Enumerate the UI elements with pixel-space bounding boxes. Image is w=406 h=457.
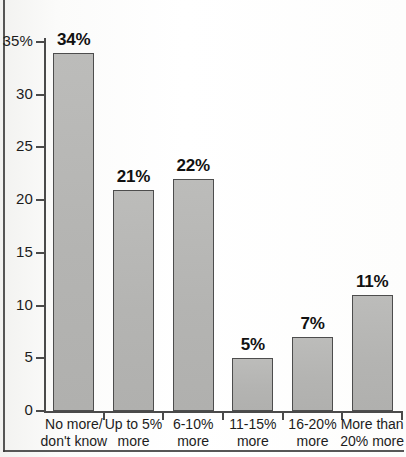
y-axis-tick-label: 20 — [0, 190, 33, 207]
y-axis-line — [44, 38, 46, 413]
category-label-line-2: more — [159, 433, 227, 450]
bar-rect — [53, 53, 94, 411]
y-axis-tick-label: 0 — [0, 401, 33, 418]
category-label-line-2: more — [279, 433, 347, 450]
y-axis-tick-mark — [36, 305, 44, 307]
bar-value-label: 34% — [57, 30, 90, 50]
bar-value-label: 22% — [176, 156, 209, 176]
bar — [352, 295, 393, 411]
y-axis-tick-label: 15 — [0, 243, 33, 260]
x-axis-category-label: 6-10%more — [159, 416, 227, 450]
y-axis-tick-label: 35% — [0, 32, 33, 49]
category-label-line-2: 20% more — [338, 433, 406, 450]
y-axis-tick-mark — [36, 410, 44, 412]
x-axis-category-label: More than20% more — [338, 416, 406, 450]
bar-rect — [352, 295, 393, 411]
category-label-line-2: more — [219, 433, 287, 450]
bar — [232, 358, 273, 411]
bar-chart: 05101520253035% 34%21%22%5%7%11% No more… — [0, 0, 406, 457]
y-axis-tick-mark — [36, 41, 44, 43]
bar-rect — [232, 358, 273, 411]
bar-value-label: 7% — [300, 314, 324, 334]
bar — [173, 179, 214, 411]
category-label-line-2: don't know — [40, 433, 108, 450]
x-axis-category-label: Up to 5%more — [100, 416, 168, 450]
y-axis-tick-label: 30 — [0, 85, 33, 102]
category-label-line-1: 11-15% — [229, 416, 276, 432]
bar-rect — [292, 337, 333, 411]
x-axis-category-label: 16-20%more — [279, 416, 347, 450]
y-axis-tick-label: 10 — [0, 296, 33, 313]
bar — [292, 337, 333, 411]
bar — [113, 190, 154, 411]
bar-rect — [173, 179, 214, 411]
bar-rect — [113, 190, 154, 411]
category-label-line-1: No more/ — [45, 416, 103, 432]
bar-value-label: 11% — [356, 272, 389, 292]
y-axis-tick-mark — [36, 357, 44, 359]
bar-value-label: 21% — [117, 167, 150, 187]
category-label-line-1: 16-20% — [288, 416, 336, 432]
y-axis-tick-label: 25 — [0, 137, 33, 154]
category-label-line-1: Up to 5% — [105, 416, 163, 432]
category-label-line-1: More than — [341, 416, 404, 432]
y-axis-tick-mark — [36, 94, 44, 96]
x-axis-category-label: No more/don't know — [40, 416, 108, 450]
category-label-line-1: 6-10% — [173, 416, 213, 432]
bar — [53, 53, 94, 411]
y-axis-tick-mark — [36, 252, 44, 254]
x-axis-category-label: 11-15%more — [219, 416, 287, 450]
category-label-line-2: more — [100, 433, 168, 450]
page-frame-bottom-edge — [3, 450, 404, 452]
y-axis-tick-mark — [36, 199, 44, 201]
y-axis-tick-label: 5 — [0, 348, 33, 365]
page-frame-left-edge — [3, 0, 5, 452]
bar-value-label: 5% — [241, 335, 265, 355]
y-axis-tick-mark — [36, 146, 44, 148]
